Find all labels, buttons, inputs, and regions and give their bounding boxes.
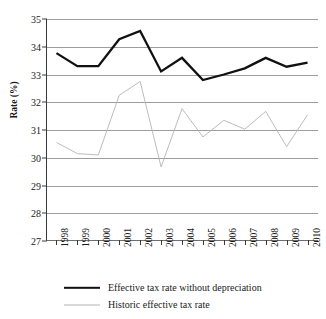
legend-label: Effective tax rate without depreciation [108,282,262,293]
legend-swatch-thin-icon [62,300,102,310]
y-tick-label: 31 [31,125,41,136]
line-chart: Rate (%) 272829303132333435 199819992000… [0,0,326,319]
y-tick-label: 33 [31,69,41,80]
series-line [56,81,307,166]
y-tick-label: 35 [31,14,41,25]
legend-item-effective-tax-rate-without-depreciation: Effective tax rate without depreciation [62,279,326,296]
series-line [56,31,307,80]
y-tick-label: 27 [31,236,41,247]
y-tick-label: 32 [31,97,41,108]
y-tick-label: 29 [31,180,41,191]
legend-item-historic-effective-tax-rate: Historic effective tax rate [62,296,326,313]
y-tick-label: 28 [31,208,41,219]
y-tick-label: 30 [31,152,41,163]
legend-label: Historic effective tax rate [108,299,210,310]
series-layer [46,19,318,241]
legend-swatch-solid-icon [62,283,102,293]
plot-area: 272829303132333435 199819992000200120022… [46,19,318,241]
chart-legend: Effective tax rate without depreciation … [62,279,326,313]
y-tick-label: 34 [31,41,41,52]
y-axis-title: Rate (%) [9,60,19,140]
